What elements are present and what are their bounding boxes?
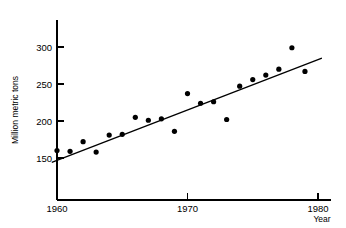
data-point	[54, 148, 59, 153]
data-point	[250, 77, 255, 82]
y-tick-label: 200	[36, 116, 52, 127]
data-point	[263, 73, 268, 78]
data-point	[224, 117, 229, 122]
data-point	[107, 132, 112, 137]
scatter-plot-figure: 150200250300 196019701980 Year Million m…	[0, 0, 346, 228]
data-point	[185, 91, 190, 96]
x-tick-label: 1980	[307, 203, 328, 214]
x-axis-title: Year	[313, 214, 330, 224]
data-point	[120, 132, 125, 137]
y-axis-ticks: 150200250300	[36, 42, 64, 164]
data-point	[94, 149, 99, 154]
data-point	[302, 69, 307, 74]
data-point	[81, 139, 86, 144]
y-tick-label: 150	[36, 153, 52, 164]
data-point	[159, 116, 164, 121]
y-tick-label: 300	[36, 42, 52, 53]
data-point	[198, 101, 203, 106]
data-point	[211, 99, 216, 104]
trend-line-group	[52, 58, 322, 162]
data-point	[172, 129, 177, 134]
data-point	[133, 115, 138, 120]
x-tick-label: 1970	[177, 203, 198, 214]
data-point	[146, 118, 151, 123]
x-tick-label: 1960	[46, 203, 67, 214]
plot-canvas: 150200250300 196019701980 Year Million m…	[0, 0, 346, 228]
data-point	[67, 149, 72, 154]
data-point-group	[54, 45, 307, 155]
data-point	[276, 67, 281, 72]
y-axis-title: Million metric tons	[10, 76, 20, 144]
data-point	[289, 45, 294, 50]
data-point	[237, 84, 242, 89]
y-tick-label: 250	[36, 79, 52, 90]
regression-line	[52, 58, 322, 162]
x-axis-ticks: 196019701980	[46, 193, 328, 214]
